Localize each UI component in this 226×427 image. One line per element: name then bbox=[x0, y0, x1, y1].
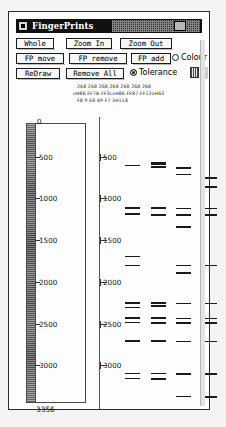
title-bar-handle bbox=[174, 21, 186, 31]
band-mark[interactable] bbox=[176, 322, 191, 324]
inner-tick-500: 500 bbox=[39, 153, 53, 162]
app-root: FingerPrints Whole Zoom In Zoom Out FP m… bbox=[0, 0, 226, 427]
band-mark[interactable] bbox=[176, 208, 191, 210]
band-mark[interactable] bbox=[176, 396, 191, 398]
band-mark[interactable] bbox=[151, 163, 166, 165]
inner-tick-2500: 2500 bbox=[39, 320, 57, 329]
remove-all-button[interactable]: Remove All bbox=[66, 68, 124, 79]
zoom-out-button[interactable]: Zoom Out bbox=[120, 38, 172, 49]
band-mark[interactable] bbox=[125, 165, 140, 167]
readout-line-3: F8 9 E8 69 F7 3H118 bbox=[77, 98, 128, 103]
inner-tick-3000: 3000 bbox=[39, 361, 57, 370]
band-mark[interactable] bbox=[176, 167, 191, 169]
readout-line-2: oH86 FF7B FF3LoH86 FF87 FF12oH63 bbox=[73, 91, 164, 96]
outer-tick-3000: 3000 bbox=[103, 361, 121, 370]
fingerprint-plot[interactable]: 0 3356 500 1000 1500 2000 2500 3000 500 … bbox=[23, 117, 209, 409]
scale-end-label: 3356 bbox=[36, 405, 55, 414]
band-mark[interactable] bbox=[125, 378, 140, 380]
redraw-button[interactable]: ReDraw bbox=[16, 68, 60, 79]
title-bar-texture bbox=[112, 20, 200, 32]
band-mark[interactable] bbox=[125, 302, 140, 304]
band-mark[interactable] bbox=[176, 341, 191, 343]
band-mark[interactable] bbox=[125, 265, 140, 267]
band-mark[interactable] bbox=[125, 256, 140, 258]
scale-zero-label: 0 bbox=[37, 117, 42, 126]
readout-line-1: 268 268 268 268 268 268 268 bbox=[77, 84, 151, 89]
title-bar[interactable]: FingerPrints bbox=[16, 19, 202, 33]
band-mark[interactable] bbox=[151, 302, 166, 304]
radio-dot-icon bbox=[172, 54, 179, 61]
inner-tick-1500: 1500 bbox=[39, 236, 57, 245]
band-mark[interactable] bbox=[125, 207, 140, 209]
band-mark[interactable] bbox=[125, 322, 140, 324]
fp-remove-button[interactable]: FP remove bbox=[69, 53, 127, 64]
band-mark[interactable] bbox=[176, 226, 191, 228]
whole-button[interactable]: Whole bbox=[16, 38, 54, 49]
zoom-in-button[interactable]: Zoom In bbox=[66, 38, 112, 49]
outer-tick-2500: 2500 bbox=[103, 320, 121, 329]
band-mark[interactable] bbox=[151, 305, 166, 307]
band-mark[interactable] bbox=[176, 318, 191, 320]
window-title: FingerPrints bbox=[32, 21, 93, 31]
radio-dot-filled-icon bbox=[130, 69, 137, 76]
band-mark[interactable] bbox=[176, 174, 191, 176]
band-mark[interactable] bbox=[176, 214, 191, 216]
band-mark[interactable] bbox=[151, 373, 166, 375]
inner-tick-2000: 2000 bbox=[39, 278, 57, 287]
fp-add-button[interactable]: FP add bbox=[131, 53, 171, 64]
band-mark[interactable] bbox=[176, 272, 191, 274]
band-mark[interactable] bbox=[151, 317, 166, 319]
band-mark[interactable] bbox=[125, 213, 140, 215]
outer-tick-500: 500 bbox=[103, 153, 117, 162]
tolerance-radio[interactable]: Tolerance bbox=[130, 68, 177, 77]
band-mark[interactable] bbox=[125, 340, 140, 342]
band-mark[interactable] bbox=[125, 373, 140, 375]
band-mark[interactable] bbox=[151, 340, 166, 342]
band-mark[interactable] bbox=[125, 307, 140, 309]
band-mark[interactable] bbox=[151, 207, 166, 209]
band-mark[interactable] bbox=[176, 265, 191, 267]
outer-tick-1500: 1500 bbox=[103, 236, 121, 245]
tolerance-radio-label: Tolerance bbox=[139, 68, 177, 77]
fp-move-button[interactable]: FP move bbox=[16, 53, 64, 64]
band-mark[interactable] bbox=[151, 379, 166, 381]
window-right-edge bbox=[200, 40, 205, 406]
pattern-swatch-icon[interactable] bbox=[190, 67, 199, 78]
band-mark[interactable] bbox=[151, 322, 166, 324]
band-mark[interactable] bbox=[125, 317, 140, 319]
band-mark[interactable] bbox=[176, 303, 191, 305]
inner-tick-1000: 1000 bbox=[39, 194, 57, 203]
band-mark[interactable] bbox=[151, 214, 166, 216]
window-menu-icon[interactable] bbox=[18, 21, 28, 31]
outer-tick-1000: 1000 bbox=[103, 194, 121, 203]
band-mark[interactable] bbox=[151, 166, 166, 168]
fingerprints-window: FingerPrints Whole Zoom In Zoom Out FP m… bbox=[8, 11, 210, 410]
outer-tick-2000: 2000 bbox=[103, 278, 121, 287]
band-mark[interactable] bbox=[176, 373, 191, 375]
